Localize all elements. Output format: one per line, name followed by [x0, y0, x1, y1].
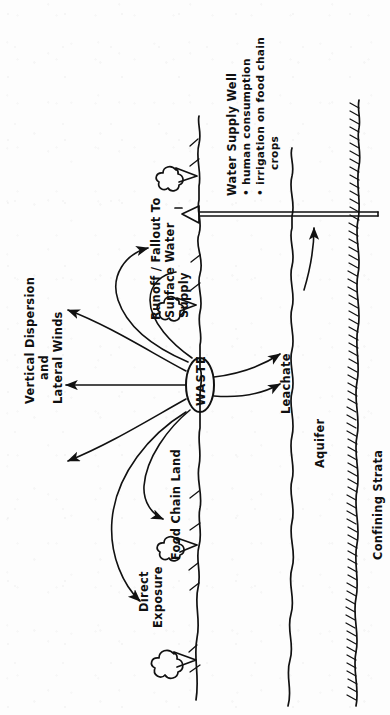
ground-surface-line — [196, 116, 202, 700]
figure-page: Vertical Dispersion and Lateral Winds Di… — [0, 0, 390, 715]
label-waste: WASTE — [194, 355, 208, 406]
contamination-pathway-diagram: Vertical Dispersion and Lateral Winds Di… — [0, 0, 390, 715]
label-runoff-line2: Surface Water — [163, 222, 177, 318]
leachate-arrow-lower — [214, 384, 280, 397]
label-runoff-line1: Runoff / Fallout To — [149, 197, 163, 320]
label-leachate: Leachate — [279, 353, 293, 414]
confining-strata-hatched-line — [346, 100, 360, 706]
label-food-chain-land: Food Chain Land — [169, 449, 183, 560]
label-lateral-winds: Lateral Winds — [51, 311, 65, 404]
label-confining-strata: Confining Strata — [371, 450, 385, 560]
tree-top — [156, 167, 197, 191]
label-aquifer: Aquifer — [313, 419, 327, 468]
label-direct-exposure-line1: Direct — [137, 571, 151, 612]
leachate-arrow-upper — [214, 354, 280, 377]
label-runoff-line3: Supply — [177, 272, 191, 318]
label-bullet-human-consumption: • human consumption — [240, 58, 252, 196]
label-direct-exposure-line2: Exposure — [151, 566, 165, 628]
label-bullet-irrigation-line1: • irrigation on food chain — [254, 37, 266, 196]
label-and: and — [37, 355, 51, 380]
label-bullet-irrigation-line2: crops — [268, 136, 280, 170]
label-vertical-dispersion: Vertical Dispersion — [23, 277, 37, 404]
groundwater-flow-arrow — [304, 228, 314, 290]
well-head-triangle — [175, 206, 199, 223]
label-water-supply-well: Water Supply Well — [225, 73, 239, 196]
water-table-line — [288, 148, 294, 706]
water-supply-well-pipe — [200, 212, 378, 216]
tree-bottom — [152, 650, 196, 678]
